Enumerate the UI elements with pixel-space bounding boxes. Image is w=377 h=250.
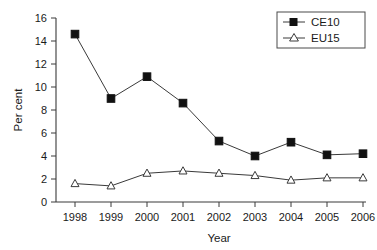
data-point-filled-square-icon: CE10 1998: 14.6 xyxy=(71,30,79,38)
legend-label-ce10: CE10 xyxy=(311,16,340,28)
y-axis-title: Per cent xyxy=(12,88,24,132)
data-point-filled-square-icon: CE10 2006: 4.2 xyxy=(359,150,367,158)
y-tick-label: 16 xyxy=(35,12,47,24)
data-point-filled-square-icon: CE10 2001: 8.6 xyxy=(179,99,187,107)
chart-legend: CE10 EU15 xyxy=(277,12,365,48)
x-tick-label: 2003 xyxy=(243,211,267,223)
y-tick-label: 2 xyxy=(41,173,47,185)
x-axis-title: Year xyxy=(207,232,230,244)
data-point-filled-square-icon: CE10 1999: 9 xyxy=(107,95,115,103)
y-tick-label: 6 xyxy=(41,127,47,139)
data-point-filled-square-icon: CE10 2005: 4.1 xyxy=(323,151,331,159)
data-point-filled-square-icon: CE10 2002: 5.3 xyxy=(215,137,223,145)
x-tick-label: 2006 xyxy=(351,211,375,223)
line-chart: 0 2 4 6 8 10 12 14 16 1998 1999 xyxy=(0,0,377,250)
y-tick-label: 10 xyxy=(35,81,47,93)
y-tick-label: 14 xyxy=(35,35,47,47)
y-tick-label: 0 xyxy=(41,196,47,208)
x-tick-label: 1999 xyxy=(99,211,123,223)
y-tick-label: 8 xyxy=(41,104,47,116)
x-tick-label: 2005 xyxy=(315,211,339,223)
x-tick-label: 2002 xyxy=(207,211,231,223)
data-point-filled-square-icon: CE10 2000: 10.9 xyxy=(143,73,151,81)
legend-label-eu15: EU15 xyxy=(311,32,340,44)
x-tick-label: 2001 xyxy=(171,211,195,223)
legend-marker-filled-square-icon xyxy=(290,19,297,26)
x-tick-label: 2000 xyxy=(135,211,159,223)
y-tick-label: 4 xyxy=(41,150,47,162)
y-tick-label: 12 xyxy=(35,58,47,70)
data-point-filled-square-icon: CE10 2003: 4 xyxy=(251,152,259,160)
chart-canvas: 0 2 4 6 8 10 12 14 16 1998 1999 xyxy=(0,0,377,250)
data-point-filled-square-icon: CE10 2004: 5.2 xyxy=(287,138,295,146)
x-tick-label: 2004 xyxy=(279,211,303,223)
x-tick-label: 1998 xyxy=(63,211,87,223)
